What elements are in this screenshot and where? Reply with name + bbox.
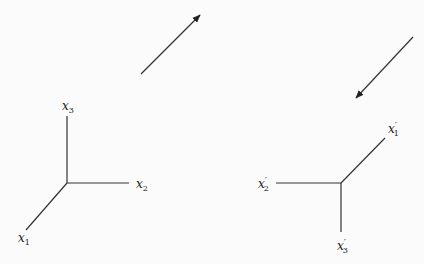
axis-label-x1-prime: x′1: [388, 121, 399, 138]
axis-label-x3-prime: x′3: [337, 238, 348, 255]
rotation-arrows: [141, 15, 413, 98]
axis-label-x1: x1: [18, 231, 30, 247]
axis-label-x2-prime: x′2: [258, 176, 269, 193]
axis-label-x2: x2: [136, 177, 148, 193]
arrow-up-right: [141, 15, 200, 74]
left-coordinate-axes: x1x2x3: [18, 99, 148, 247]
arrow-down-left: [356, 37, 413, 98]
diagram-canvas: x1x2x3 x′1x′2x′3: [0, 0, 424, 264]
axis-x1-prime: [341, 138, 385, 183]
axis-x1: [26, 183, 67, 230]
right-coordinate-axes-rotated: x′1x′2x′3: [258, 121, 399, 255]
axis-label-x3: x3: [62, 99, 74, 115]
